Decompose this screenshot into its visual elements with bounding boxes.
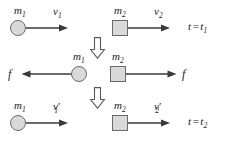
flow-arrow-2 [89, 87, 106, 109]
mass-subscript: 1 [22, 105, 26, 114]
mass-subscript: 2 [120, 56, 124, 65]
velocity-label-v1-after: v′1 [53, 101, 58, 115]
mass-label-m1-after: m1 [14, 100, 26, 114]
body-m1-after [10, 115, 26, 131]
mass-label-m1-during: m1 [73, 51, 85, 65]
velocity-label-v2-after: v′2 [154, 101, 159, 115]
velocity-arrow-v2-after [128, 117, 172, 129]
force-arrow-left [20, 68, 72, 80]
body-m1-during [71, 66, 87, 82]
velocity-subscript: 2 [155, 106, 159, 115]
time-label-after: t = t2 [188, 116, 207, 130]
mass-symbol: m [112, 50, 120, 62]
time-value-subscript: 1 [203, 26, 207, 35]
velocity-arrow-v1-before [26, 22, 70, 34]
velocity-label-v1-before: v1 [53, 6, 62, 20]
circle-shape-m1-during [71, 66, 87, 82]
force-label-f-right: f [182, 68, 185, 80]
velocity-subscript: 1 [54, 106, 58, 115]
velocity-subscript: 1 [58, 11, 62, 20]
velocity-label-v2-before: v2 [154, 6, 163, 20]
circle-shape-m1-after [10, 115, 26, 131]
time-value-subscript: 2 [203, 121, 207, 130]
body-m2-before [112, 20, 128, 36]
mass-subscript: 2 [122, 105, 126, 114]
velocity-prime: ′ [159, 100, 161, 112]
velocity-subscript: 2 [159, 11, 163, 20]
velocity-arrow-v2-before [128, 22, 172, 34]
mass-label-m2-during: m2 [112, 51, 124, 65]
mass-subscript: 1 [22, 10, 26, 19]
mass-symbol: m [14, 4, 22, 16]
force-arrow-right [126, 68, 178, 80]
velocity-prime: ′ [58, 100, 60, 112]
mass-symbol: m [114, 99, 122, 111]
force-label-f-left: f [8, 68, 11, 80]
mass-symbol: m [114, 4, 122, 16]
square-shape-m2-during [110, 66, 126, 82]
mass-label-m2-after: m2 [114, 100, 126, 114]
body-m2-during [110, 66, 126, 82]
force-symbol: f [182, 67, 185, 81]
mass-label-m2-before: m2 [114, 5, 126, 19]
flow-arrow-1 [89, 37, 106, 59]
mass-subscript: 1 [81, 56, 85, 65]
mass-symbol: m [14, 99, 22, 111]
circle-shape-m1-before [10, 20, 26, 36]
force-symbol: f [8, 67, 11, 81]
mass-subscript: 2 [122, 10, 126, 19]
physics-collision-diagram: m1 v1 m2 v2 t = t1 f [0, 0, 231, 146]
body-m2-after [112, 115, 128, 131]
square-shape-m2-before [112, 20, 128, 36]
square-shape-m2-after [112, 115, 128, 131]
mass-symbol: m [73, 50, 81, 62]
mass-label-m1-before: m1 [14, 5, 26, 19]
time-label-before: t = t1 [188, 21, 207, 35]
body-m1-before [10, 20, 26, 36]
velocity-arrow-v1-after [26, 117, 70, 129]
